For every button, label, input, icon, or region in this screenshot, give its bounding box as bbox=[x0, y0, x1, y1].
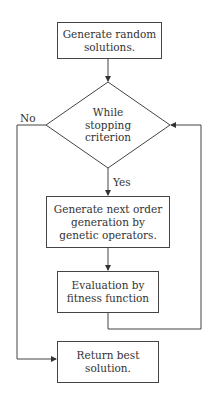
yes-label: Yes bbox=[113, 176, 131, 188]
generate-node: Generate next order generation by geneti… bbox=[46, 196, 170, 248]
generate-node-text: Generate next order generation by geneti… bbox=[51, 203, 165, 242]
start-node: Generate random solutions. bbox=[57, 22, 162, 59]
end-node: Return best solution. bbox=[57, 341, 159, 383]
decision-text: While stopping criterion bbox=[68, 106, 148, 144]
start-node-text: Generate random solutions. bbox=[62, 28, 157, 54]
evaluate-node-text: Evaluation by fitness function bbox=[62, 279, 154, 305]
evaluate-node: Evaluation by fitness function bbox=[57, 271, 159, 313]
no-label: No bbox=[20, 112, 36, 124]
end-node-text: Return best solution. bbox=[62, 349, 154, 375]
